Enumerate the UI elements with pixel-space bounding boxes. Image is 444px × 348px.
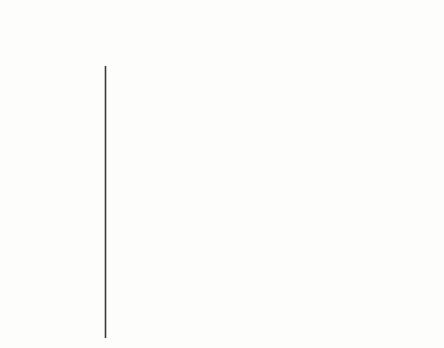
chart-page [0, 0, 444, 348]
line-chart-svg [0, 0, 444, 348]
plot-area [0, 0, 444, 348]
